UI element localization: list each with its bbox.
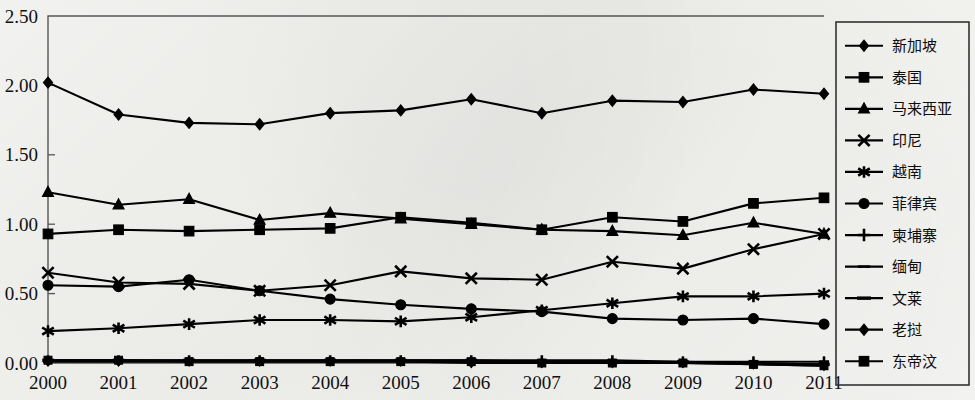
- x-tick-label: 2000: [29, 372, 67, 393]
- data-point-square: [115, 356, 123, 364]
- data-point-square: [185, 358, 193, 366]
- data-point-square: [114, 225, 124, 235]
- data-point-square: [44, 356, 52, 364]
- x-tick-label: 2004: [311, 372, 350, 393]
- series-path: [48, 198, 824, 234]
- data-point-square: [608, 359, 616, 367]
- legend-item-9[interactable]: 老挝: [845, 321, 922, 339]
- x-tick-label: 2009: [664, 372, 702, 393]
- series-4: [42, 288, 830, 337]
- x-tick-label: 2008: [593, 372, 631, 393]
- y-tick-label: 1.50: [5, 144, 38, 165]
- data-point-circle: [184, 275, 194, 285]
- data-point-square: [467, 358, 475, 366]
- data-point-square: [326, 358, 334, 366]
- legend-item-8[interactable]: 文莱: [845, 290, 922, 308]
- legend-label: 马来西亚: [892, 100, 952, 118]
- data-point-square: [184, 226, 194, 236]
- data-point-diamond: [749, 84, 758, 95]
- data-point-circle: [859, 199, 869, 209]
- legend-item-2[interactable]: 马来西亚: [845, 100, 952, 118]
- data-point-square: [750, 360, 758, 368]
- data-point-circle: [255, 286, 265, 296]
- data-point-square: [679, 359, 687, 367]
- legend-label: 柬埔寨: [892, 227, 937, 245]
- data-point-plus: [858, 229, 870, 241]
- data-point-square: [397, 358, 405, 366]
- data-point-triangle: [42, 186, 53, 196]
- legend-item-4[interactable]: 越南: [845, 163, 922, 181]
- data-point-diamond: [467, 94, 476, 105]
- plot-area: [48, 16, 824, 363]
- series-0: [43, 77, 828, 130]
- data-point-diamond: [608, 95, 617, 106]
- data-point-diamond: [819, 88, 828, 99]
- legend-label: 老挝: [892, 321, 922, 339]
- legend-item-3[interactable]: 印尼: [845, 132, 922, 150]
- chart-page: 0.000.501.001.502.002.502000200120022003…: [0, 0, 975, 400]
- series-path: [48, 280, 824, 324]
- y-tick-label: 2.00: [5, 75, 38, 96]
- data-point-circle: [819, 319, 829, 329]
- data-point-diamond: [859, 40, 868, 51]
- legend-item-6[interactable]: 柬埔寨: [845, 227, 937, 245]
- data-point-circle: [43, 280, 53, 290]
- data-point-diamond: [184, 117, 193, 128]
- data-point-square: [749, 199, 759, 209]
- legend: 新加坡泰国马来西亚印尼越南菲律宾柬埔寨缅甸文莱老挝东帝汶: [836, 22, 969, 385]
- data-point-triangle: [748, 217, 759, 227]
- legend-item-7[interactable]: 缅甸: [845, 258, 922, 276]
- x-tick-label: 2002: [170, 372, 208, 393]
- data-point-diamond: [255, 119, 264, 130]
- series-path: [48, 83, 824, 125]
- data-point-square: [820, 362, 828, 370]
- data-point-diamond: [326, 108, 335, 119]
- data-point-circle: [114, 282, 124, 292]
- data-point-square: [256, 358, 264, 366]
- y-tick-label: 0.00: [5, 353, 38, 374]
- data-point-diamond: [859, 324, 868, 335]
- data-point-square: [538, 359, 546, 367]
- x-tick-label: 2001: [100, 372, 138, 393]
- data-point-square: [325, 224, 335, 234]
- data-point-square: [859, 356, 869, 366]
- data-point-circle: [466, 304, 476, 314]
- legend-label: 越南: [892, 163, 922, 181]
- x-tick-label: 2007: [523, 372, 561, 393]
- data-point-diamond: [678, 96, 687, 107]
- y-tick-label: 0.50: [5, 283, 38, 304]
- data-point-square: [678, 217, 688, 227]
- data-point-diamond: [43, 77, 52, 88]
- x-tick-label: 2011: [805, 372, 842, 393]
- data-point-diamond: [114, 109, 123, 120]
- series-3: [42, 228, 829, 296]
- data-point-square: [608, 212, 618, 222]
- legend-item-5[interactable]: 菲律宾: [845, 195, 937, 213]
- x-tick-label: 2005: [382, 372, 420, 393]
- legend-item-1[interactable]: 泰国: [845, 69, 922, 87]
- data-point-diamond: [537, 108, 546, 119]
- data-point-circle: [396, 300, 406, 310]
- y-tick-label: 2.50: [5, 6, 38, 27]
- legend-label: 菲律宾: [892, 195, 937, 213]
- series-path: [48, 192, 824, 235]
- series-layer: [42, 77, 830, 370]
- data-point-circle: [748, 314, 758, 324]
- legend-item-0[interactable]: 新加坡: [845, 37, 937, 55]
- data-point-square: [859, 73, 869, 83]
- legend-label: 缅甸: [892, 258, 922, 276]
- x-tick-label: 2006: [452, 372, 490, 393]
- line-chart: 0.000.501.001.502.002.502000200120022003…: [0, 0, 975, 400]
- data-point-triangle: [325, 207, 336, 217]
- x-tick-label: 2010: [734, 372, 772, 393]
- data-point-circle: [537, 307, 547, 317]
- legend-label: 印尼: [892, 132, 922, 150]
- data-point-circle: [678, 315, 688, 325]
- data-point-circle: [325, 294, 335, 304]
- legend-label: 新加坡: [892, 37, 937, 55]
- data-point-square: [819, 193, 829, 203]
- data-point-square: [255, 225, 265, 235]
- series-1: [43, 193, 829, 239]
- legend-item-10[interactable]: 东帝汶: [845, 353, 937, 371]
- legend-label: 文莱: [892, 290, 922, 308]
